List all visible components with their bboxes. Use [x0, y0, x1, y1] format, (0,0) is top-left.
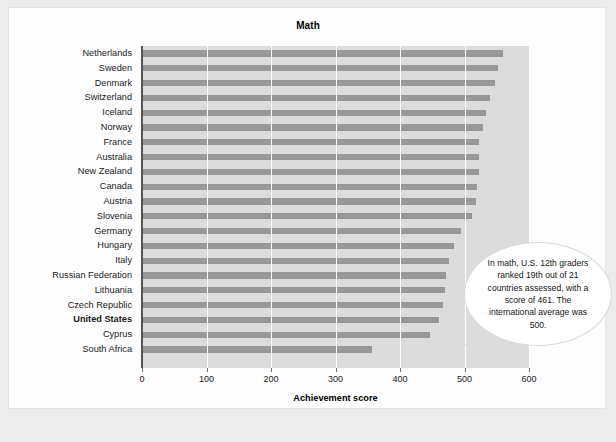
bar [142, 50, 503, 56]
bar [142, 154, 479, 160]
x-axis-tick-label: 200 [263, 374, 278, 384]
x-axis-tick-label: 300 [328, 374, 343, 384]
gridline-200 [271, 46, 272, 368]
y-axis-tick-label: Australia [9, 150, 137, 165]
bar [142, 302, 443, 308]
y-axis-tick-label: Italy [9, 253, 137, 268]
y-axis-tick-label: Austria [9, 194, 137, 209]
y-axis-tick-label: Germany [9, 224, 137, 239]
bar [142, 139, 479, 145]
bar [142, 213, 472, 219]
y-axis-tick-label: Sweden [9, 61, 137, 76]
callout-text: In math, U.S. 12th graders ranked 19th o… [465, 257, 611, 331]
y-axis-tick-label: South Africa [9, 342, 137, 357]
bar [142, 80, 495, 86]
y-axis-tick-label: Norway [9, 120, 137, 135]
x-axis-tick-label: 500 [457, 374, 472, 384]
gridline-400 [400, 46, 401, 368]
bar [142, 243, 454, 249]
x-axis: 0100200300400500600 [142, 368, 529, 372]
x-axis-tick-label: 600 [521, 374, 536, 384]
y-axis-tick-label: Denmark [9, 76, 137, 91]
x-axis-tick-label: 100 [199, 374, 214, 384]
bar [142, 346, 372, 352]
bar [142, 258, 449, 264]
bar [142, 317, 439, 323]
bar [142, 110, 486, 116]
gridline-100 [207, 46, 208, 368]
y-axis-tick-label: Hungary [9, 238, 137, 253]
bar [142, 198, 476, 204]
x-axis-tick [207, 368, 208, 372]
y-axis-tick-label: Iceland [9, 105, 137, 120]
y-axis-tick-label: United States [9, 312, 137, 327]
bar [142, 332, 430, 338]
x-axis-tick [271, 368, 272, 372]
x-axis-tick [142, 368, 143, 372]
y-axis-tick-label: Russian Federation [9, 268, 137, 283]
x-axis-tick-label: 0 [139, 374, 144, 384]
y-axis-tick-label: Switzerland [9, 90, 137, 105]
y-axis-tick-label: Netherlands [9, 46, 137, 61]
y-axis-labels: NetherlandsSwedenDenmarkSwitzerlandIcela… [9, 46, 137, 368]
bar [142, 95, 490, 101]
y-axis-line [141, 46, 143, 368]
y-axis-tick-label: Lithuania [9, 283, 137, 298]
callout-bubble: In math, U.S. 12th graders ranked 19th o… [464, 242, 612, 346]
y-axis-tick-label: Cyprus [9, 327, 137, 342]
y-axis-tick-label: Canada [9, 179, 137, 194]
y-axis-tick-label: New Zealand [9, 164, 137, 179]
x-axis-tick-label: 400 [392, 374, 407, 384]
x-axis-title: Achievement score [142, 393, 529, 403]
bar [142, 184, 477, 190]
bar [142, 65, 498, 71]
x-axis-tick [336, 368, 337, 372]
x-axis-tick [529, 368, 530, 372]
y-axis-tick-label: France [9, 135, 137, 150]
gridline-300 [336, 46, 337, 368]
bar [142, 169, 479, 175]
chart-title: Math [9, 20, 607, 31]
y-axis-tick-label: Slovenia [9, 209, 137, 224]
y-axis-tick-label: Czech Republic [9, 298, 137, 313]
chart-card: Math NetherlandsSwedenDenmarkSwitzerland… [8, 7, 606, 409]
x-axis-tick [400, 368, 401, 372]
x-axis-tick [465, 368, 466, 372]
bar [142, 228, 461, 234]
bar [142, 124, 483, 130]
